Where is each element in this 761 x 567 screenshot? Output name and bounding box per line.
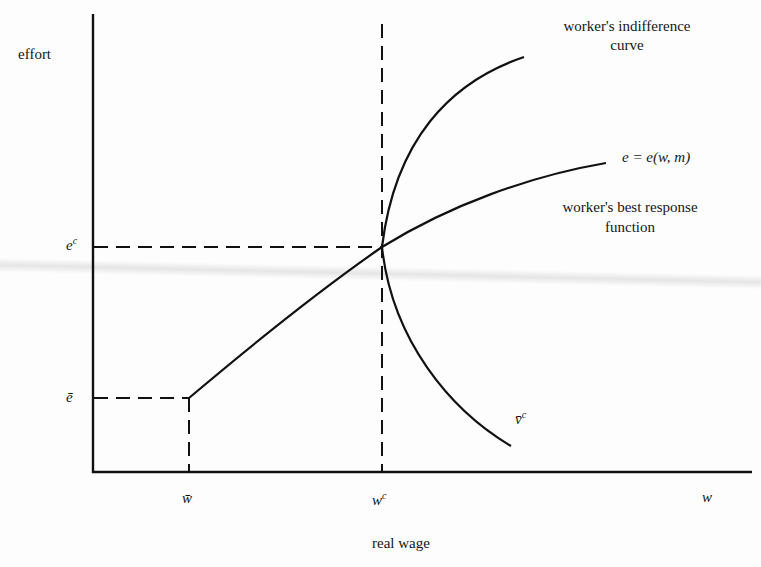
best-response-equation: e = e(w, m): [622, 150, 690, 165]
wbar-tick-label: w̄: [182, 491, 192, 506]
indifference-curve: [382, 57, 524, 446]
y-axis-label: effort: [18, 47, 51, 62]
indifference-curve-label: worker's indifference curve: [532, 17, 722, 55]
x-axis-end-label: w: [702, 490, 712, 505]
best-response-label: worker's best response function: [515, 197, 745, 237]
vbar-c-label: v̄c: [515, 410, 526, 427]
wc-tick-label: wc: [372, 491, 386, 508]
diagram-graphics: [0, 0, 761, 567]
effort-wage-diagram: effort real wage w ec ē w̄ wc worker's i…: [0, 0, 761, 567]
ec-tick-label: ec: [66, 236, 77, 253]
x-axis-label: real wage: [372, 536, 430, 551]
ebar-tick-label: ē: [66, 390, 73, 405]
